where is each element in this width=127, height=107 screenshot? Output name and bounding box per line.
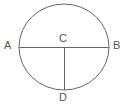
point-label-b: B (113, 40, 120, 51)
point-label-a: A (4, 40, 11, 51)
point-label-d: D (59, 92, 67, 103)
circle-diagram: A B C D (0, 0, 127, 107)
point-label-c: C (59, 33, 67, 44)
